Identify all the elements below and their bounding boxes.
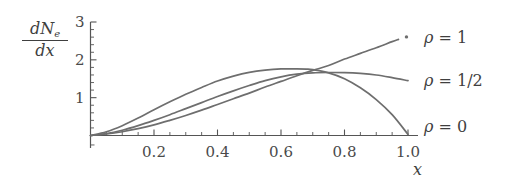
y-tick-label: 3 — [69, 15, 85, 30]
y-tick-label: 2 — [69, 52, 85, 67]
x-axis-label: x — [413, 160, 422, 179]
endpoint-dot-rho-1 — [405, 35, 408, 38]
legend-value: = 1 — [433, 28, 467, 47]
x-tick-label: 0.4 — [206, 145, 230, 160]
x-tick-label: 0.8 — [333, 145, 357, 160]
data-curves — [91, 39, 409, 135]
x-tick-label: 1.0 — [396, 145, 420, 160]
figure-container: dNe dx 0.20.40.60.81.0 123 ρ = 1ρ = 1/2ρ… — [0, 0, 518, 189]
legend-rho-symbol: ρ — [424, 71, 433, 90]
legend-value: = 1/2 — [433, 71, 482, 90]
y-tick-label: 1 — [69, 90, 85, 105]
legend-rho-symbol: ρ — [424, 117, 433, 136]
y-axis-ticks — [91, 22, 97, 145]
legend-item-rho-1-2: ρ = 1/2 — [424, 71, 483, 90]
data-endpoint-markers — [405, 35, 408, 38]
legend-item-rho-0: ρ = 0 — [424, 117, 467, 136]
x-tick-label: 0.2 — [142, 145, 166, 160]
legend-value: = 0 — [433, 117, 467, 136]
curve-rho-1-2 — [91, 73, 409, 136]
x-tick-label: 0.6 — [269, 145, 293, 160]
legend-item-rho-1: ρ = 1 — [424, 28, 467, 47]
x-axis-ticks — [106, 130, 408, 136]
legend-rho-symbol: ρ — [424, 28, 433, 47]
